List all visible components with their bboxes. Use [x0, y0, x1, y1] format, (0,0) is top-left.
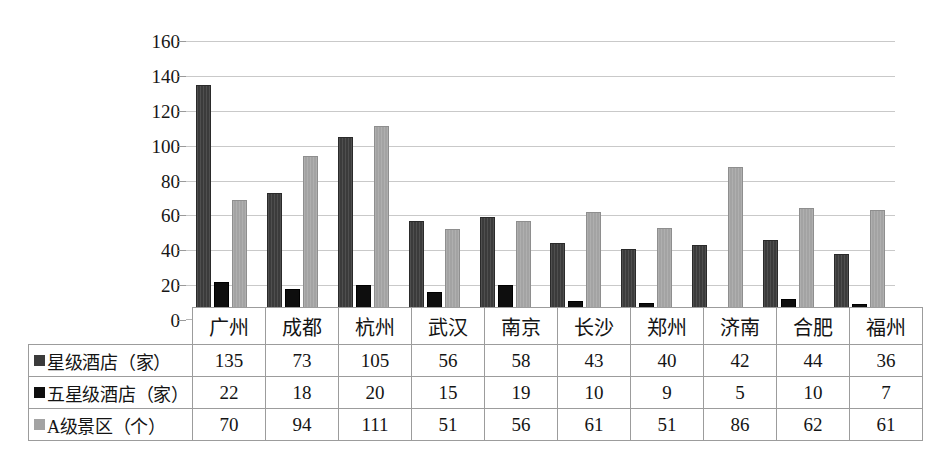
table-column-header: 南京 [485, 308, 558, 345]
table-cell: 135 [193, 345, 266, 377]
table-cell: 61 [850, 409, 923, 441]
y-axis-ticks [178, 41, 186, 320]
y-axis-tick [178, 215, 186, 216]
table-cell: 73 [266, 345, 339, 377]
y-axis-tick [178, 146, 186, 147]
legend-row-header: A级景区（个） [29, 409, 193, 441]
table-cell: 61 [558, 409, 631, 441]
table-cell: 94 [266, 409, 339, 441]
bar[interactable] [870, 210, 885, 320]
table-column-header: 郑州 [631, 308, 704, 345]
bar[interactable] [409, 221, 424, 320]
table-column-header: 广州 [193, 308, 266, 345]
bar-group [753, 41, 824, 320]
bar-group [257, 41, 328, 320]
table-cell: 22 [193, 377, 266, 409]
bar-group [824, 41, 895, 320]
y-axis-tick [178, 111, 186, 112]
plot-area [186, 41, 895, 320]
bar[interactable] [586, 212, 601, 320]
table-cell: 5 [704, 377, 777, 409]
bar[interactable] [338, 137, 353, 320]
table-cell: 15 [412, 377, 485, 409]
table-cell: 9 [631, 377, 704, 409]
table-cell: 62 [777, 409, 850, 441]
table-cell: 10 [558, 377, 631, 409]
table-cell: 56 [412, 345, 485, 377]
bar-group [541, 41, 612, 320]
table-column-header: 合肥 [777, 308, 850, 345]
y-axis-tick-label: 140 [152, 66, 181, 85]
table-column-header: 杭州 [339, 308, 412, 345]
table-cell: 70 [193, 409, 266, 441]
table-cell: 51 [412, 409, 485, 441]
table-row: A级景区（个）709411151566151866261 [29, 409, 923, 441]
legend-label: 五星级酒店（家） [47, 385, 189, 405]
y-axis-tick-label: 120 [152, 101, 181, 120]
bar-group [611, 41, 682, 320]
table-cell: 10 [777, 377, 850, 409]
y-axis-tick-label: 100 [152, 136, 181, 155]
y-axis-tick [178, 285, 186, 286]
legend-label: 星级酒店（家） [47, 353, 171, 373]
y-axis-tick [178, 250, 186, 251]
table-cell: 58 [485, 345, 558, 377]
y-axis-tick-label: 160 [152, 32, 181, 51]
table-column-header: 长沙 [558, 308, 631, 345]
bar[interactable] [728, 167, 743, 320]
legend-swatch-icon [34, 355, 45, 366]
y-axis-tick [178, 76, 186, 77]
chart-figure: 020406080100120140160 广州成都杭州武汉南京长沙郑州济南合肥… [0, 0, 931, 460]
bar-group [682, 41, 753, 320]
table-column-header: 武汉 [412, 308, 485, 345]
table-cell: 44 [777, 345, 850, 377]
bar-group [399, 41, 470, 320]
table-corner-cell [29, 308, 193, 345]
legend-row-header: 星级酒店（家） [29, 345, 193, 377]
bar-group [328, 41, 399, 320]
y-axis-tick [178, 181, 186, 182]
table-row: 星级酒店（家）1357310556584340424436 [29, 345, 923, 377]
table-cell: 40 [631, 345, 704, 377]
table-cell: 36 [850, 345, 923, 377]
table-column-header: 福州 [850, 308, 923, 345]
bar-group [186, 41, 257, 320]
legend-swatch-icon [34, 387, 45, 398]
bar[interactable] [480, 217, 495, 320]
bar[interactable] [267, 193, 282, 320]
table-cell: 20 [339, 377, 412, 409]
bar[interactable] [374, 126, 389, 320]
table-cell: 18 [266, 377, 339, 409]
table-cell: 111 [339, 409, 412, 441]
bar[interactable] [303, 156, 318, 320]
legend-row-header: 五星级酒店（家） [29, 377, 193, 409]
table-cell: 86 [704, 409, 777, 441]
y-axis-tick [178, 41, 186, 42]
table-cell: 56 [485, 409, 558, 441]
table-column-header: 济南 [704, 308, 777, 345]
legend-swatch-icon [34, 419, 45, 430]
data-table: 广州成都杭州武汉南京长沙郑州济南合肥福州星级酒店（家）1357310556584… [28, 307, 923, 441]
bar[interactable] [232, 200, 247, 320]
bar[interactable] [516, 221, 531, 320]
y-axis-tick-labels: 020406080100120140160 [150, 41, 180, 320]
table-cell: 51 [631, 409, 704, 441]
bar-group [470, 41, 541, 320]
bar[interactable] [196, 85, 211, 320]
table-cell: 19 [485, 377, 558, 409]
table-cell: 105 [339, 345, 412, 377]
table-cell: 43 [558, 345, 631, 377]
legend-label: A级景区（个） [47, 417, 166, 437]
bar[interactable] [799, 208, 814, 320]
table-cell: 42 [704, 345, 777, 377]
table-cell: 7 [850, 377, 923, 409]
table-row: 五星级酒店（家）22182015191095107 [29, 377, 923, 409]
table-column-header: 成都 [266, 308, 339, 345]
table-header-row: 广州成都杭州武汉南京长沙郑州济南合肥福州 [29, 308, 923, 345]
